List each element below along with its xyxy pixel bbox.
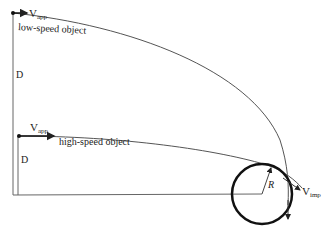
- low-speed-velocity-label: Vapp: [29, 7, 48, 21]
- radius-label: R: [267, 179, 274, 190]
- high-speed-distance-label: D: [21, 154, 28, 165]
- low-speed-distance-label: D: [16, 69, 23, 80]
- low-speed-object-label: low-speed object: [18, 21, 87, 36]
- trajectory-diagram: Vapp low-speed object D Vapp high-speed …: [0, 0, 329, 232]
- low-speed-trajectory: [13, 13, 288, 205]
- high-speed-velocity-label: Vapp: [30, 121, 49, 135]
- impact-velocity-label: Vimp: [302, 185, 321, 199]
- baseline: [13, 194, 262, 195]
- high-speed-object-label: high-speed object: [59, 136, 130, 147]
